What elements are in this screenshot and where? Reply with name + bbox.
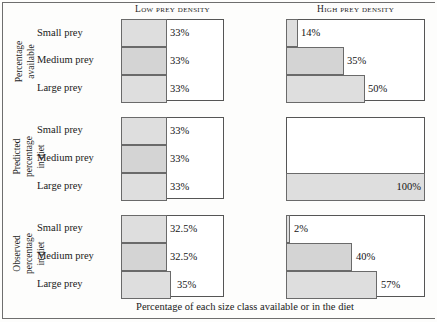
row-group-caption-percentage-available: Percentage available — [3, 30, 35, 92]
bar-predicted-low-medium — [121, 145, 167, 173]
panel-observed-low-density: 32.5% 32.5% 35% — [121, 215, 224, 297]
bar-value-predicted-low-medium: 33% — [170, 153, 189, 165]
bar-value-available-low-large: 33% — [170, 83, 189, 95]
bar-predicted-low-large — [121, 173, 167, 201]
bar-value-predicted-low-small: 33% — [170, 125, 189, 137]
bar-value-observed-high-medium: 40% — [356, 251, 375, 263]
bar-value-predicted-low-large: 33% — [170, 181, 189, 193]
bar-available-low-large — [121, 75, 167, 103]
bar-value-available-low-medium: 33% — [170, 55, 189, 67]
bar-observed-low-medium — [121, 243, 167, 271]
bar-value-observed-low-large: 35% — [177, 279, 196, 291]
prey-label-small-available: Small prey — [37, 27, 119, 39]
column-header-high-prey-density: High prey density — [286, 3, 425, 16]
panel-available-high-density: 14% 35% 50% — [286, 19, 425, 101]
bar-available-high-medium — [286, 47, 344, 75]
bar-observed-high-small — [286, 215, 290, 243]
bar-value-available-high-medium: 35% — [347, 55, 366, 67]
bar-value-observed-low-small: 32.5% — [170, 223, 197, 235]
row-group-caption-predicted-percentage-in-diet: Predicted percentage in diet — [3, 125, 35, 187]
bar-observed-high-medium — [286, 243, 352, 271]
bar-available-high-large — [286, 75, 365, 103]
bar-observed-low-large — [121, 271, 171, 299]
panel-available-low-density: 33% 33% 33% — [121, 19, 224, 101]
prey-label-large-available: Large prey — [37, 82, 119, 94]
panel-predicted-low-density: 33% 33% 33% — [121, 117, 224, 199]
bar-value-observed-low-medium: 32.5% — [170, 251, 197, 263]
panel-observed-high-density: 2% 40% 57% — [286, 215, 425, 297]
row-caption-line: percentage — [24, 233, 34, 274]
bar-value-predicted-high-large: 100% — [373, 181, 421, 193]
prey-label-large-observed: Large prey — [37, 278, 119, 290]
bar-available-high-small — [286, 19, 298, 47]
row-caption-line: Percentage — [14, 41, 24, 83]
row-caption-line: percentage — [24, 136, 34, 177]
prey-label-medium-available: Medium prey — [37, 54, 119, 66]
row-group-caption-observed-percentage-in-diet: Observed percentage in diet — [3, 222, 35, 284]
bar-value-observed-high-small: 2% — [294, 223, 308, 235]
prey-label-medium-predicted: Medium prey — [37, 152, 119, 164]
bar-value-available-high-large: 50% — [368, 83, 387, 95]
prey-label-large-predicted: Large prey — [37, 180, 119, 192]
bar-value-observed-high-large: 57% — [381, 279, 400, 291]
bar-value-available-high-small: 14% — [301, 27, 320, 39]
prey-label-small-observed: Small prey — [37, 222, 119, 234]
frame-bottom-rule — [2, 318, 435, 319]
x-axis-caption: Percentage of each size class available … — [60, 300, 430, 313]
figure-root: Low prey density High prey density Perce… — [0, 0, 437, 322]
bar-available-low-small — [121, 19, 167, 47]
column-header-low-prey-density: Low prey density — [121, 3, 224, 16]
bar-observed-low-small — [121, 215, 167, 243]
row-caption-line: Observed — [12, 235, 22, 271]
prey-label-small-predicted: Small prey — [37, 124, 119, 136]
bar-predicted-low-small — [121, 117, 167, 145]
bar-available-low-medium — [121, 47, 167, 75]
row-caption-line: available — [26, 44, 36, 78]
panel-predicted-high-density: 100% — [286, 117, 425, 199]
bar-observed-high-large — [286, 271, 377, 299]
row-caption-line: Predicted — [12, 139, 22, 175]
prey-label-medium-observed: Medium prey — [37, 250, 119, 262]
bar-value-available-low-small: 33% — [170, 27, 189, 39]
